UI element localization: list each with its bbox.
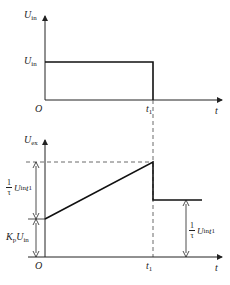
uin-level-label: Uin [24,56,37,68]
top-x-axis-label: t [215,106,218,116]
input-pulse [45,62,153,100]
bottom-x-axis-label: t [215,263,218,273]
bottom-y-axis-label: Uex [24,135,38,147]
top-origin-label: O [35,104,42,114]
bottom-t1-label: t1 [146,261,152,273]
integrator-timing-diagram: Uin Uin O t1 t Uex 1τ Uint1 KpUin 1τ Uin… [0,0,230,285]
top-y-axis-label: Uin [24,10,37,22]
bottom-origin-label: O [35,261,42,271]
top-t1-label: t1 [146,104,152,116]
offset-label: KpUin [6,232,29,244]
hold-label: 1τ Uint1 [189,221,215,240]
output-waveform [45,162,202,219]
ramp-label: 1τ Uint1 [6,178,32,197]
